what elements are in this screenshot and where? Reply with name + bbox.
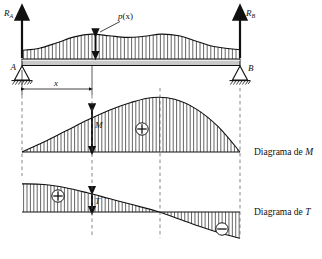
minus-circle-icon-shear	[216, 223, 228, 235]
moment-caption: Diagrama de M	[254, 147, 314, 157]
load-label: p(x)	[117, 11, 133, 21]
support-b-label: B	[248, 63, 254, 73]
shear-caption: Diagrama de T	[254, 207, 311, 217]
moment-ordinate-label: M	[94, 120, 103, 130]
beam-member	[22, 59, 240, 66]
plus-circle-icon-shear	[52, 190, 64, 202]
figure-background	[0, 0, 322, 259]
beam-bending-shear-figure: A B RA RB	[0, 0, 322, 259]
plus-circle-icon	[136, 123, 148, 135]
support-a-label: A	[10, 62, 17, 72]
x-distance-label: x	[53, 78, 58, 88]
